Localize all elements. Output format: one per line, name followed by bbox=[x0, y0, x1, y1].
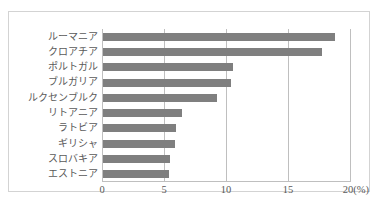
bar-9 bbox=[103, 170, 169, 178]
x-tick-label-20: 20(%) bbox=[343, 184, 369, 195]
bar-row: スロバキア bbox=[102, 151, 350, 166]
category-label-2: ポルトガル bbox=[48, 59, 98, 74]
chart-frame: ルーマニアクロアチアポルトガルブルガリアルクセンブルクリトアニアラトビアギリシャ… bbox=[8, 11, 370, 192]
category-label-0: ルーマニア bbox=[48, 29, 98, 44]
bar-row: リトアニア bbox=[102, 106, 350, 121]
bar-4 bbox=[103, 94, 217, 102]
bar-5 bbox=[103, 109, 182, 117]
chart-screenshot: ルーマニアクロアチアポルトガルブルガリアルクセンブルクリトアニアラトビアギリシャ… bbox=[0, 0, 377, 200]
bar-row: ルーマニア bbox=[102, 29, 350, 44]
category-label-5: リトアニア bbox=[48, 105, 98, 120]
bar-row: ポルトガル bbox=[102, 60, 350, 75]
category-label-9: エストニア bbox=[48, 166, 98, 181]
x-tick-label-0: 0 bbox=[99, 184, 104, 195]
category-label-4: ルクセンブルク bbox=[28, 90, 98, 105]
x-tick-label-5: 5 bbox=[161, 184, 166, 195]
plot-area: ルーマニアクロアチアポルトガルブルガリアルクセンブルクリトアニアラトビアギリシャ… bbox=[102, 29, 350, 182]
category-label-7: ギリシャ bbox=[58, 136, 98, 151]
bar-6 bbox=[103, 124, 176, 132]
x-tick-label-15: 15 bbox=[283, 184, 294, 195]
bar-row: エストニア bbox=[102, 167, 350, 182]
bar-2 bbox=[103, 63, 233, 71]
bar-row: ルクセンブルク bbox=[102, 90, 350, 105]
gridline-20 bbox=[350, 29, 351, 182]
bar-row: ギリシャ bbox=[102, 136, 350, 151]
category-label-1: クロアチア bbox=[48, 44, 98, 59]
bar-1 bbox=[103, 48, 322, 56]
category-label-8: スロバキア bbox=[48, 151, 98, 166]
bar-row: クロアチア bbox=[102, 44, 350, 59]
bar-row: ブルガリア bbox=[102, 75, 350, 90]
x-tick-label-10: 10 bbox=[221, 184, 232, 195]
bar-0 bbox=[103, 33, 335, 41]
bar-7 bbox=[103, 140, 175, 148]
category-label-3: ブルガリア bbox=[48, 74, 98, 89]
bar-3 bbox=[103, 79, 231, 87]
category-label-6: ラトビア bbox=[58, 120, 98, 135]
bar-8 bbox=[103, 155, 170, 163]
bar-row: ラトビア bbox=[102, 121, 350, 136]
